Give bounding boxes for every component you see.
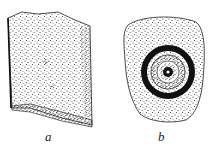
- label-a: a: [45, 129, 52, 145]
- illustration: [0, 0, 212, 155]
- artifact-b: [124, 17, 204, 122]
- artifact-a: [8, 12, 92, 127]
- label-b: b: [158, 129, 165, 145]
